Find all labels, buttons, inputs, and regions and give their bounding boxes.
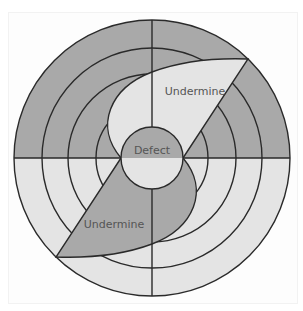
wound-undermining-diagram: Defect Undermine Undermine (0, 0, 303, 311)
defect-label: Defect (134, 144, 171, 157)
undermine-label-lower: Undermine (84, 218, 145, 231)
undermine-label-upper: Undermine (165, 85, 226, 98)
